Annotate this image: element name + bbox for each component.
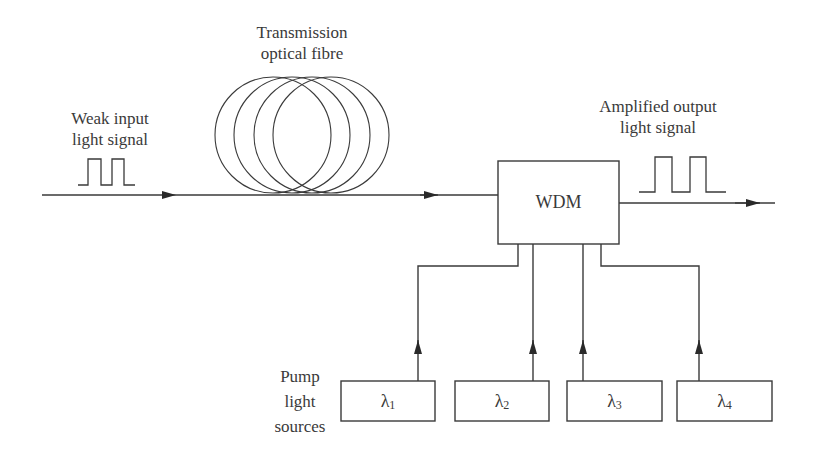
input-label-line1: Weak input [55, 108, 165, 129]
output-label-line1: Amplified output [573, 96, 743, 117]
pump-sources-label: Pump light sources [260, 364, 340, 439]
lambda-subscript: 2 [503, 398, 509, 413]
output-signal-label: Amplified output light signal [573, 96, 743, 138]
fibre-label-line1: Transmission [232, 22, 372, 43]
pump-1-line [418, 244, 518, 381]
pump-2-label: λ2 [455, 381, 549, 421]
lambda-subscript: 4 [726, 398, 732, 413]
fibre-coil-icon [215, 77, 389, 193]
pump-4-line [601, 244, 699, 381]
lambda-symbol: λ [717, 391, 726, 412]
wdm-label: WDM [498, 161, 619, 244]
lambda-symbol: λ [495, 391, 504, 412]
fibre-label-line2: optical fibre [232, 43, 372, 64]
pump-4-label: λ4 [677, 381, 772, 421]
fibre-label: Transmission optical fibre [232, 22, 372, 64]
lambda-subscript: 1 [389, 398, 395, 413]
input-label-line2: light signal [55, 129, 165, 150]
output-pulse-icon [639, 157, 726, 192]
pump-label-line1: Pump [260, 364, 340, 389]
pump-label-line3: sources [260, 414, 340, 439]
pump-1-label: λ1 [341, 381, 435, 421]
lambda-symbol: λ [381, 391, 390, 412]
pump-3-label: λ3 [567, 381, 662, 421]
pump-label-line2: light [260, 389, 340, 414]
wdm-text: WDM [536, 192, 582, 213]
output-label-line2: light signal [573, 117, 743, 138]
lambda-subscript: 3 [616, 398, 622, 413]
input-signal-label: Weak input light signal [55, 108, 165, 150]
lambda-symbol: λ [607, 391, 616, 412]
input-pulse-icon [78, 159, 135, 185]
